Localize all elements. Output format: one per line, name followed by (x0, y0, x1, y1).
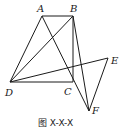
label-c: C (64, 86, 72, 97)
segment-bd (10, 16, 73, 82)
segment-ef (89, 58, 108, 111)
label-e: E (110, 55, 119, 66)
segments (10, 16, 108, 111)
label-b: B (69, 3, 77, 14)
figure-caption: 图 X-X-X (38, 118, 73, 128)
segment-de (10, 58, 108, 82)
label-d: D (4, 87, 13, 98)
label-a: A (36, 3, 44, 14)
geometry-figure: A B C D E F 图 X-X-X (0, 0, 121, 128)
label-f: F (91, 105, 100, 116)
segment-ad (10, 16, 42, 82)
